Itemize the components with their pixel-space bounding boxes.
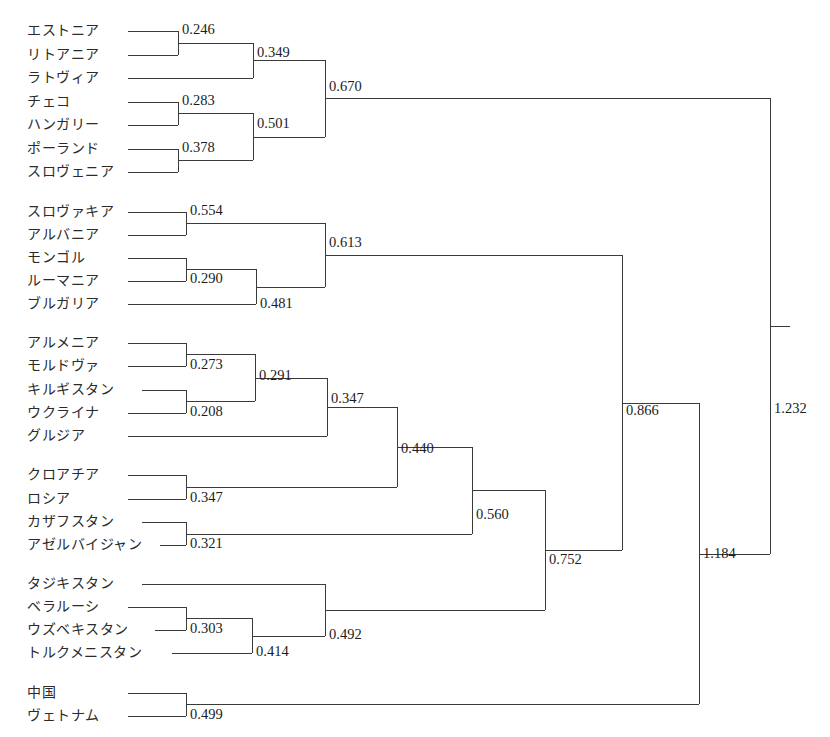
merge-distance-label: 0.414 (256, 644, 289, 659)
leaf-label: ロシア (27, 492, 71, 506)
merge-distance-label: 0.613 (329, 235, 362, 250)
leaf-label: エストニア (27, 24, 100, 38)
leaf-label: ウクライナ (27, 406, 100, 420)
leaf-label: ブルガリア (27, 297, 100, 311)
merge-distance-label: 1.184 (703, 546, 736, 561)
merge-distance-label: 0.347 (190, 490, 223, 505)
leaf-label: アゼルバイジャン (27, 538, 142, 552)
leaf-label: 中国 (27, 686, 56, 700)
leaf-label: クロアチア (27, 468, 100, 482)
leaf-label: ルーマニア (27, 274, 100, 288)
dendrogram-figure: エストニアリトアニアラトヴィアチェコハンガリーポーランドスロヴェニアスロヴァキア… (0, 0, 830, 737)
merge-distance-label: 0.273 (190, 357, 223, 372)
leaf-label: モンゴル (27, 251, 85, 265)
leaf-label: トルクメニスタン (27, 646, 142, 660)
merge-distance-label: 0.492 (329, 627, 362, 642)
merge-distance-label: 0.499 (190, 707, 223, 722)
merge-distance-label: 0.866 (626, 403, 659, 418)
leaf-label: タジキスタン (27, 577, 114, 591)
merge-distance-label: 0.303 (190, 621, 223, 636)
merge-distance-label: 1.232 (774, 401, 807, 416)
leaf-label: ラトヴィア (27, 71, 100, 85)
leaf-label: スロヴェニア (27, 165, 114, 179)
dendrogram-links (128, 31, 790, 716)
merge-distance-label: 0.347 (331, 391, 364, 406)
merge-distance-label: 0.290 (190, 271, 223, 286)
leaf-label: ウズベキスタン (27, 623, 129, 637)
merge-distance-label: 0.481 (260, 296, 293, 311)
leaf-label: カザフスタン (27, 515, 114, 529)
merge-distance-label: 0.378 (182, 140, 215, 155)
leaf-label: グルジア (27, 429, 85, 443)
merge-distance-label: 0.501 (257, 116, 290, 131)
merge-distance-label: 0.283 (182, 93, 215, 108)
merge-distance-label: 0.291 (259, 368, 292, 383)
leaf-label: ベラルーシ (27, 600, 100, 614)
merge-distance-label: 0.554 (190, 203, 223, 218)
merge-distance-label: 0.440 (401, 441, 434, 456)
leaf-label: アルバニア (27, 228, 100, 242)
merge-distance-label: 0.246 (182, 22, 215, 37)
leaf-label: モルドヴァ (27, 359, 100, 373)
merge-distance-label: 0.208 (190, 404, 223, 419)
leaf-label: チェコ (27, 95, 71, 109)
leaf-label: スロヴァキア (27, 205, 114, 219)
merge-distance-label: 0.752 (549, 552, 582, 567)
leaf-label: リトアニア (27, 48, 100, 62)
leaf-label: キルギスタン (27, 383, 114, 397)
leaf-label: ハンガリー (27, 118, 100, 132)
merge-distance-label: 0.670 (329, 79, 362, 94)
merge-distance-label: 0.560 (476, 507, 509, 522)
merge-distance-label: 0.349 (257, 45, 290, 60)
leaf-label: アルメニア (27, 336, 100, 350)
leaf-label: ポーランド (27, 142, 100, 156)
leaf-label: ヴェトナム (27, 709, 100, 723)
merge-distance-label: 0.321 (190, 536, 223, 551)
